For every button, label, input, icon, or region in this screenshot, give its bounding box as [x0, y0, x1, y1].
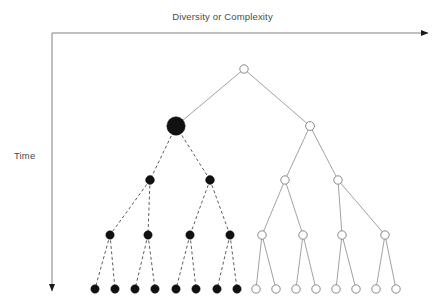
tree-node-filled: [144, 231, 152, 239]
tree-edge-root: [176, 69, 244, 126]
tree-node-open: [252, 285, 260, 293]
tree-edge-solid: [310, 126, 338, 180]
tree-node-open: [372, 285, 380, 293]
tree-node-filled: [131, 285, 139, 293]
tree-edge-solid: [262, 180, 285, 235]
tree-node-open: [312, 285, 320, 293]
tree-edge-solid: [303, 235, 316, 289]
tree-node-open: [352, 285, 360, 293]
tree-node-filled: [111, 285, 119, 293]
tree-node-open: [334, 176, 342, 184]
tree-diagram-svg: [0, 0, 445, 304]
tree-edge-solid: [385, 235, 396, 289]
tree-edge-solid: [338, 180, 385, 235]
tree-node-filled: [233, 285, 241, 293]
tree-node-filled: [151, 285, 159, 293]
tree-edge-dashed: [176, 235, 190, 289]
tree-node-open: [338, 231, 346, 239]
tree-edge-dashed: [110, 235, 115, 289]
diagram-canvas: Diversity or Complexity Time: [0, 0, 445, 304]
tree-nodes-group: [91, 65, 400, 293]
axes-group: [52, 33, 428, 291]
tree-node-open: [292, 285, 300, 293]
tree-edge-dashed: [148, 180, 150, 235]
tree-node-open: [299, 231, 307, 239]
tree-edge-solid: [285, 180, 303, 235]
tree-edge-dashed: [148, 235, 155, 289]
tree-edge-dashed: [176, 126, 210, 180]
tree-node-open: [258, 231, 266, 239]
tree-node-filled-large: [167, 117, 185, 135]
tree-node-open: [381, 231, 389, 239]
tree-edge-solid: [336, 235, 342, 289]
tree-edge-solid: [256, 235, 262, 289]
tree-edge-solid: [342, 235, 356, 289]
tree-edge-root: [244, 69, 310, 126]
tree-edge-solid: [285, 126, 310, 180]
tree-node-filled: [146, 176, 155, 185]
tree-node-open: [306, 122, 315, 131]
tree-edge-dashed: [210, 180, 230, 235]
tree-node-open: [272, 285, 280, 293]
tree-edge-solid: [338, 180, 342, 235]
tree-edge-solid: [296, 235, 303, 289]
tree-node-filled: [172, 285, 180, 293]
tree-edge-dashed: [190, 235, 196, 289]
tree-edge-dashed: [217, 235, 230, 289]
tree-edge-dashed: [135, 235, 148, 289]
tree-node-filled: [213, 285, 221, 293]
tree-node-root: [240, 65, 248, 73]
tree-edge-dashed: [95, 235, 110, 289]
tree-node-open: [332, 285, 340, 293]
tree-node-open: [281, 176, 289, 184]
tree-edge-solid: [376, 235, 385, 289]
tree-node-filled: [91, 285, 99, 293]
tree-edge-dashed: [230, 235, 237, 289]
tree-node-open: [392, 285, 400, 293]
tree-edge-dashed: [190, 180, 210, 235]
tree-node-filled: [206, 176, 215, 185]
tree-edge-solid: [262, 235, 276, 289]
tree-node-filled: [192, 285, 200, 293]
tree-node-filled: [186, 231, 194, 239]
tree-edges-group: [95, 69, 396, 289]
tree-edge-dashed: [110, 180, 150, 235]
tree-node-filled: [226, 231, 234, 239]
tree-node-filled: [106, 231, 114, 239]
